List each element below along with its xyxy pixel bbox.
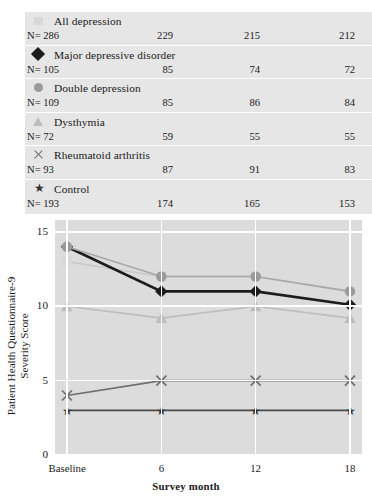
sample-size-row: N= 93879183 [25, 162, 372, 178]
chart-figure: All depressionN= 286229215212Major depre… [0, 0, 372, 498]
sample-size-cell: 86 [200, 95, 260, 111]
diamond-icon [33, 48, 47, 62]
y-tick-label: 15 [37, 226, 48, 237]
legend-entry: All depression [33, 13, 122, 29]
sample-size-cell: 85 [113, 95, 173, 111]
gridline-vertical [161, 220, 163, 455]
sample-size-cell: 91 [200, 162, 260, 178]
sample-size-row: N= 193174165153 [25, 196, 372, 212]
sample-size-cell: N= 193 [27, 196, 59, 212]
sample-size-cell: 212 [291, 28, 355, 44]
sample-size-cell: 85 [113, 62, 173, 78]
triangle-icon [33, 115, 47, 129]
x-tick-label: 12 [250, 461, 261, 475]
sample-size-cell: 153 [291, 196, 355, 212]
legend-row: ★ControlN= 193174165153 [25, 180, 372, 214]
x-icon [33, 148, 47, 162]
legend-entry: ★Control [33, 181, 90, 197]
gridline-horizontal [55, 380, 362, 382]
sample-size-cell: N= 109 [27, 95, 59, 111]
legend-table: All depressionN= 286229215212Major depre… [25, 12, 372, 215]
legend-entry: Dysthymia [33, 114, 105, 130]
sample-size-cell: 215 [200, 28, 260, 44]
y-tick-label: 10 [37, 300, 48, 311]
sample-size-row: N= 72595555 [25, 129, 372, 145]
sample-size-cell: N= 105 [27, 62, 59, 78]
legend-label: Major depressive disorder [54, 48, 175, 62]
legend-label: Control [54, 182, 90, 196]
plot-area: ★★★★ [55, 220, 362, 455]
plot-container: 051015 ★★★★ Baseline61218 Survey month P… [0, 215, 372, 498]
legend-row: Rheumatoid arthritisN= 93879183 [25, 146, 372, 180]
sample-size-cell: 83 [291, 162, 355, 178]
y-tick-label: 5 [42, 375, 48, 386]
x-tick-label: 18 [345, 461, 356, 475]
gridline-horizontal [55, 305, 362, 307]
sample-size-cell: 165 [200, 196, 260, 212]
legend-row: Double depressionN= 109858684 [25, 79, 372, 113]
sample-size-cell: 72 [291, 62, 355, 78]
gridline-vertical [66, 220, 68, 455]
sample-size-cell: 174 [113, 196, 173, 212]
x-axis-tick-labels: Baseline61218 [55, 461, 362, 477]
sample-size-row: N= 109858684 [25, 95, 372, 111]
sample-size-row: N= 105857472 [25, 62, 372, 78]
square-icon [33, 14, 47, 28]
x-tick-label: 6 [159, 461, 164, 475]
gridline-horizontal [55, 231, 362, 233]
legend-row: All depressionN= 286229215212 [25, 12, 372, 46]
sample-size-cell: N= 286 [27, 28, 59, 44]
legend-entry: Rheumatoid arthritis [33, 147, 150, 163]
sample-size-cell: N= 72 [27, 129, 54, 145]
legend-row: Major depressive disorderN= 105857472 [25, 46, 372, 80]
legend-entry: Double depression [33, 80, 141, 96]
gridline-vertical [349, 220, 351, 455]
series-line [67, 381, 350, 396]
y-axis-title-line2: Severity Score [18, 236, 31, 456]
legend-entry: Major depressive disorder [33, 47, 175, 63]
sample-size-cell: 55 [291, 129, 355, 145]
sample-size-cell: 74 [200, 62, 260, 78]
legend-label: Double depression [54, 81, 141, 95]
gridline-horizontal [55, 454, 362, 456]
y-axis-title: Patient Health Questionnaire-9 Severity … [5, 236, 31, 456]
legend-label: Rheumatoid arthritis [54, 148, 150, 162]
sample-size-cell: 87 [113, 162, 173, 178]
sample-size-cell: 84 [291, 95, 355, 111]
legend-label: Dysthymia [54, 115, 105, 129]
sample-size-cell: 229 [113, 28, 173, 44]
x-axis-title: Survey month [0, 480, 372, 492]
series-dysthymia [61, 300, 356, 323]
series-line [67, 306, 350, 318]
legend-row: DysthymiaN= 72595555 [25, 113, 372, 147]
series-control: ★★★★ [62, 404, 356, 418]
legend-label: All depression [54, 14, 122, 28]
series-layer: ★★★★ [55, 220, 362, 455]
y-tick-label: 0 [42, 449, 48, 460]
gridline-vertical [255, 220, 257, 455]
circle-icon [33, 81, 47, 95]
star-icon: ★ [33, 182, 47, 196]
sample-size-cell: N= 93 [27, 162, 54, 178]
sample-size-cell: 59 [113, 129, 173, 145]
x-tick-label: Baseline [49, 461, 86, 475]
sample-size-cell: 55 [200, 129, 260, 145]
y-axis-title-line1: Patient Health Questionnaire-9 [5, 277, 17, 416]
sample-size-row: N= 286229215212 [25, 28, 372, 44]
series-double-depression [62, 242, 355, 297]
